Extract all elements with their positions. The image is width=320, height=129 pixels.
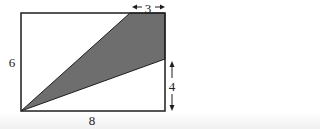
geometry-figure [0, 0, 179, 129]
top-segment-label: 3 [145, 2, 152, 15]
left-height-label: 6 [9, 56, 16, 69]
diagram: 3 4 6 8 [0, 0, 179, 129]
bottom-width-label: 8 [89, 114, 96, 127]
shaded-region [21, 13, 165, 111]
right-segment-label: 4 [169, 80, 176, 93]
